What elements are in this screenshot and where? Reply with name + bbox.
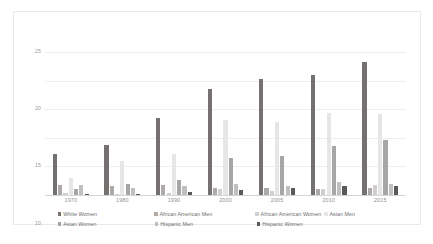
- x-axis-tick-label: 2015: [354, 197, 406, 203]
- bar: [104, 145, 108, 195]
- bar: [311, 75, 315, 195]
- y-axis-tick-label: 20: [35, 105, 41, 111]
- bar-group: [200, 53, 252, 195]
- legend-label: White Women: [63, 211, 97, 217]
- bar: [131, 188, 135, 195]
- bar: [342, 186, 346, 195]
- x-axis-tick-label: 2010: [303, 197, 355, 203]
- legend-row-2: Asian WomenHispanic MenHispanic Women: [58, 219, 358, 229]
- legend-swatch-icon: [257, 222, 260, 225]
- y-axis-tick-label: 15: [35, 162, 41, 168]
- bar: [280, 156, 284, 195]
- bar: [208, 89, 212, 195]
- bar: [383, 140, 387, 195]
- x-axis-line: [45, 195, 406, 196]
- bar: [79, 185, 83, 195]
- bar: [234, 184, 238, 195]
- bar: [389, 184, 393, 195]
- chart-legend: White WomenAfrican American MenAfrican A…: [58, 209, 358, 229]
- legend-swatch-icon: [154, 212, 157, 215]
- bar: [327, 113, 331, 195]
- bar: [291, 188, 295, 195]
- legend-item[interactable]: Asian Men: [324, 211, 355, 217]
- chart-figure: 0510152025 1970198019902000200520102015 …: [13, 11, 421, 225]
- bar: [332, 146, 336, 195]
- bar-group: [354, 53, 406, 195]
- bar-group: [97, 53, 149, 195]
- bar: [53, 154, 57, 195]
- bar-group: [45, 53, 97, 195]
- bar: [362, 62, 366, 195]
- bar: [286, 186, 290, 195]
- bar: [69, 178, 73, 195]
- legend-label: Asian Men: [330, 211, 355, 217]
- bar: [161, 185, 165, 195]
- legend-row-1: White WomenAfrican American MenAfrican A…: [58, 209, 358, 219]
- legend-swatch-icon: [58, 222, 61, 225]
- x-axis-tick-label: 1980: [97, 197, 149, 203]
- bar: [213, 188, 217, 195]
- legend-label: Asian Women: [63, 221, 96, 227]
- legend-label: Hispanic Men: [160, 221, 193, 227]
- legend-item[interactable]: Hispanic Men: [155, 221, 257, 227]
- bar: [58, 185, 62, 195]
- legend-item[interactable]: Hispanic Women: [257, 221, 303, 227]
- y-axis-tick-label: 10: [35, 220, 41, 226]
- legend-item[interactable]: White Women: [58, 211, 154, 217]
- bar: [182, 186, 186, 195]
- legend-label: Hispanic Women: [262, 221, 303, 227]
- bar: [126, 184, 130, 195]
- legend-swatch-icon: [324, 212, 327, 215]
- x-axis-tick-label: 2000: [200, 197, 252, 203]
- x-axis-labels: 1970198019902000200520102015: [45, 197, 406, 203]
- bar: [264, 188, 268, 195]
- legend-item[interactable]: African American Men: [154, 211, 255, 217]
- legend-swatch-icon: [58, 212, 61, 215]
- bar: [368, 188, 372, 195]
- legend-label: African American Women: [261, 211, 322, 217]
- bar-group: [148, 53, 200, 195]
- bar: [259, 79, 263, 195]
- bar: [156, 118, 160, 195]
- bar: [373, 185, 377, 195]
- bar: [394, 186, 398, 195]
- bar: [229, 158, 233, 195]
- figure-caption: [14, 232, 414, 243]
- bar: [275, 122, 279, 195]
- bar-group: [251, 53, 303, 195]
- x-axis-tick-label: 2005: [251, 197, 303, 203]
- y-axis-tick-label: 25: [35, 48, 41, 54]
- bar: [110, 186, 114, 195]
- bar-group: [303, 53, 355, 195]
- legend-item[interactable]: African American Women: [255, 211, 321, 217]
- bar: [172, 154, 176, 195]
- legend-swatch-icon: [155, 222, 158, 225]
- bar: [378, 114, 382, 195]
- bar-groups: [45, 53, 406, 195]
- legend-swatch-icon: [255, 212, 258, 215]
- bar: [120, 161, 124, 195]
- x-axis-tick-label: 1990: [148, 197, 200, 203]
- bar: [177, 180, 181, 195]
- bar: [337, 182, 341, 195]
- legend-label: African American Men: [159, 211, 212, 217]
- legend-item[interactable]: Asian Women: [58, 221, 155, 227]
- plot-area: 0510152025: [45, 53, 406, 196]
- x-axis-tick-label: 1970: [45, 197, 97, 203]
- bar: [223, 120, 227, 195]
